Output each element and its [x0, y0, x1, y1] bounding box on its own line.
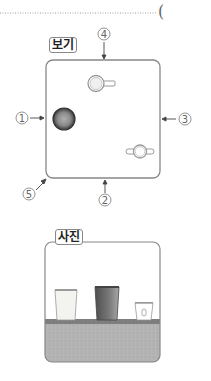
dark-cup-top-icon	[53, 108, 75, 130]
arrow-1	[30, 116, 44, 120]
photo-box-label: 사진	[55, 229, 83, 245]
answer-paren: (	[158, 2, 164, 21]
svg-text:1: 1	[19, 113, 25, 124]
svg-text:4: 4	[101, 29, 107, 40]
svg-text:3: 3	[182, 114, 188, 125]
svg-text:2: 2	[102, 195, 108, 206]
dark-tall-cup	[95, 286, 119, 320]
arrow-3	[162, 117, 176, 121]
position-5-marker: 5	[23, 188, 35, 200]
position-2-marker: 2	[99, 194, 111, 206]
light-tall-cup	[55, 289, 77, 320]
position-1-marker: 1	[16, 112, 28, 124]
position-3-marker: 3	[179, 113, 191, 125]
diagram-canvas: 4 1 3 2 5	[0, 0, 211, 381]
arrow-5	[36, 179, 46, 190]
position-4-marker: 4	[98, 28, 110, 40]
arrow-4	[102, 42, 106, 59]
arrow-2	[103, 180, 107, 193]
view-box-label: 보기	[49, 37, 77, 53]
small-handled-cup	[135, 302, 153, 320]
svg-text:5: 5	[26, 189, 32, 200]
